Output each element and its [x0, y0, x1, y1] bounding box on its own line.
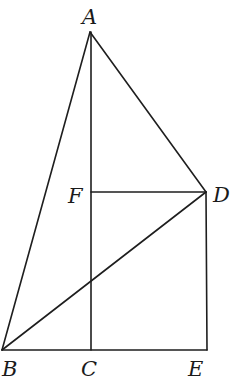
label-d: D	[212, 183, 230, 207]
label-a: A	[80, 5, 97, 29]
label-e: E	[187, 357, 203, 380]
segment-ad	[90, 32, 206, 192]
label-f: F	[67, 184, 84, 208]
label-b: B	[1, 357, 17, 380]
geometry-diagram: A D F B C E	[0, 0, 239, 380]
segment-bd	[2, 192, 206, 350]
segment-de	[206, 192, 207, 350]
label-c: C	[81, 357, 97, 380]
